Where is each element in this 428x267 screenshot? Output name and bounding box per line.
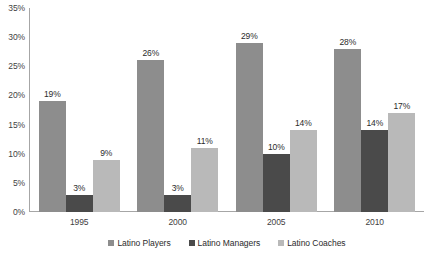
bar-slot: 10% <box>263 8 290 212</box>
bar-value-label: 14% <box>366 118 383 128</box>
x-axis-tick: 2000 <box>129 213 228 231</box>
bar[interactable]: 9% <box>93 160 120 212</box>
x-axis-tick: 2010 <box>326 213 425 231</box>
bar-group: 29%10%14% <box>227 8 326 212</box>
bar-chart: 35%30%25%20%15%10%5%0% 19%3%9%26%3%11%29… <box>0 0 428 267</box>
legend-swatch-icon <box>278 240 284 246</box>
bar-value-label: 3% <box>172 183 184 193</box>
bar-value-label: 26% <box>142 48 159 58</box>
bar-value-label: 11% <box>197 136 213 146</box>
y-axis-tick: 35% <box>8 3 25 13</box>
legend-item[interactable]: Latino Players <box>108 238 170 248</box>
y-axis-tick: 25% <box>8 61 25 71</box>
legend-label: Latino Managers <box>198 238 261 248</box>
bar-slot: 14% <box>290 8 317 212</box>
bar[interactable]: 14% <box>290 130 317 212</box>
bar[interactable]: 3% <box>164 195 191 212</box>
bar-slot: 17% <box>388 8 415 212</box>
bar-value-label: 3% <box>73 183 85 193</box>
bar-value-label: 14% <box>295 118 312 128</box>
bar[interactable]: 19% <box>39 101 66 212</box>
bar-slot: 29% <box>236 8 263 212</box>
legend-swatch-icon <box>189 240 195 246</box>
x-axis-tick: 2005 <box>227 213 326 231</box>
legend-label: Latino Players <box>117 238 170 248</box>
y-axis-tick: 30% <box>8 32 25 42</box>
y-axis-tick: 20% <box>8 90 25 100</box>
legend-label: Latino Coaches <box>287 238 345 248</box>
bar[interactable]: 14% <box>361 130 388 212</box>
chart-legend: Latino PlayersLatino ManagersLatino Coac… <box>0 238 428 248</box>
bar[interactable]: 28% <box>334 49 361 212</box>
bar-value-label: 9% <box>100 148 112 158</box>
bar[interactable]: 11% <box>191 148 218 212</box>
bar-value-label: 17% <box>393 101 410 111</box>
x-axis: 1995200020052010 <box>30 213 424 231</box>
bar[interactable]: 29% <box>236 43 263 212</box>
bar-slot: 19% <box>39 8 66 212</box>
bar-value-label: 10% <box>268 142 285 152</box>
bar-groups: 19%3%9%26%3%11%29%10%14%28%14%17% <box>30 8 424 212</box>
bar-group: 26%3%11% <box>129 8 228 212</box>
bar-slot: 14% <box>361 8 388 212</box>
legend-item[interactable]: Latino Coaches <box>278 238 345 248</box>
y-axis-tick: 5% <box>13 178 25 188</box>
bar-group: 19%3%9% <box>30 8 129 212</box>
y-axis-tick: 10% <box>8 149 25 159</box>
bar-slot: 28% <box>334 8 361 212</box>
x-axis-tick: 1995 <box>30 213 129 231</box>
legend-swatch-icon <box>108 240 114 246</box>
bar[interactable]: 3% <box>66 195 93 212</box>
bar[interactable]: 17% <box>388 113 415 212</box>
bar-slot: 3% <box>164 8 191 212</box>
bar[interactable]: 10% <box>263 154 290 212</box>
bar-slot: 9% <box>93 8 120 212</box>
bar-slot: 11% <box>191 8 218 212</box>
bar-group: 28%14%17% <box>326 8 425 212</box>
y-axis: 35%30%25%20%15%10%5%0% <box>0 0 29 220</box>
bar-slot: 3% <box>66 8 93 212</box>
bar-slot: 26% <box>137 8 164 212</box>
y-axis-tick: 0% <box>13 207 25 217</box>
y-axis-tick: 15% <box>8 120 25 130</box>
legend-item[interactable]: Latino Managers <box>189 238 261 248</box>
bar-value-label: 29% <box>241 31 258 41</box>
bar[interactable]: 26% <box>137 60 164 212</box>
bar-value-label: 28% <box>339 37 356 47</box>
bar-value-label: 19% <box>44 89 61 99</box>
